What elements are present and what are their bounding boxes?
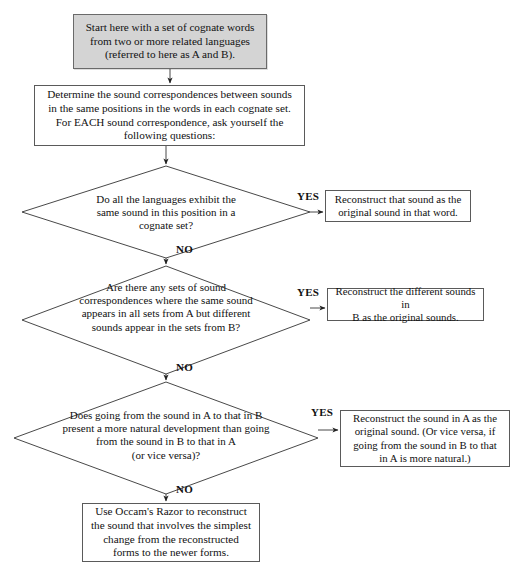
edge-label-yes-1: YES: [297, 190, 319, 202]
node-result-2-text: Reconstruct the different sounds in B as…: [328, 285, 483, 325]
flowchart-page: Start here with a set of cognate words f…: [0, 0, 532, 581]
node-final[interactable]: Use Occam's Razor to reconstruct the sou…: [82, 503, 260, 562]
node-determine[interactable]: Determine the sound correspondences betw…: [34, 85, 305, 146]
node-start-text: Start here with a set of cognate words f…: [81, 21, 260, 62]
edge-label-no-1: NO: [176, 243, 193, 255]
edge-label-yes-3: YES: [311, 406, 333, 418]
node-result-3-text: Reconstruct the sound in A as the origin…: [348, 412, 502, 465]
decision-1-diamond[interactable]: [22, 166, 310, 258]
decision-3-diamond[interactable]: [14, 382, 318, 494]
node-final-text: Use Occam's Razor to reconstruct the sou…: [86, 505, 256, 560]
edge-label-no-3: NO: [176, 483, 193, 495]
node-result-2[interactable]: Reconstruct the different sounds in B as…: [327, 288, 484, 321]
node-determine-text: Determine the sound correspondences betw…: [42, 88, 297, 143]
node-result-3[interactable]: Reconstruct the sound in A as the origin…: [340, 410, 510, 467]
node-result-1-text: Reconstruct that sound as the original s…: [330, 193, 467, 219]
edge-label-no-2: NO: [176, 361, 193, 373]
node-start[interactable]: Start here with a set of cognate words f…: [73, 14, 267, 69]
node-result-1[interactable]: Reconstruct that sound as the original s…: [325, 190, 471, 222]
edge-label-yes-2: YES: [297, 286, 319, 298]
decision-2-diamond[interactable]: [22, 266, 310, 374]
